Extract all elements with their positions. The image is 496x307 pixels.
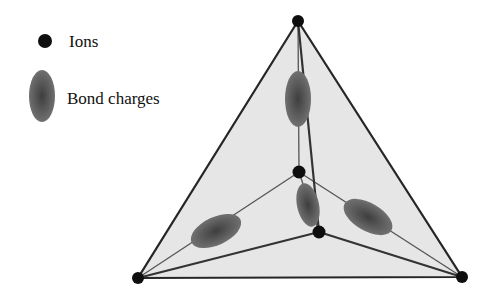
ion-legend-icon xyxy=(38,34,52,48)
ions-legend-label: Ions xyxy=(69,32,98,51)
ion xyxy=(313,226,326,239)
ion xyxy=(456,271,468,283)
bond-charge-legend-icon xyxy=(29,70,55,122)
ion xyxy=(292,15,304,27)
bond-charge xyxy=(285,71,311,127)
ion xyxy=(132,272,144,284)
tetrahedron-face xyxy=(138,21,462,278)
legend: Ions Bond charges xyxy=(29,32,160,122)
tetrahedron-diagram: Ions Bond charges xyxy=(0,0,496,307)
ion xyxy=(293,166,306,179)
bond-charges-legend-label: Bond charges xyxy=(67,89,160,108)
